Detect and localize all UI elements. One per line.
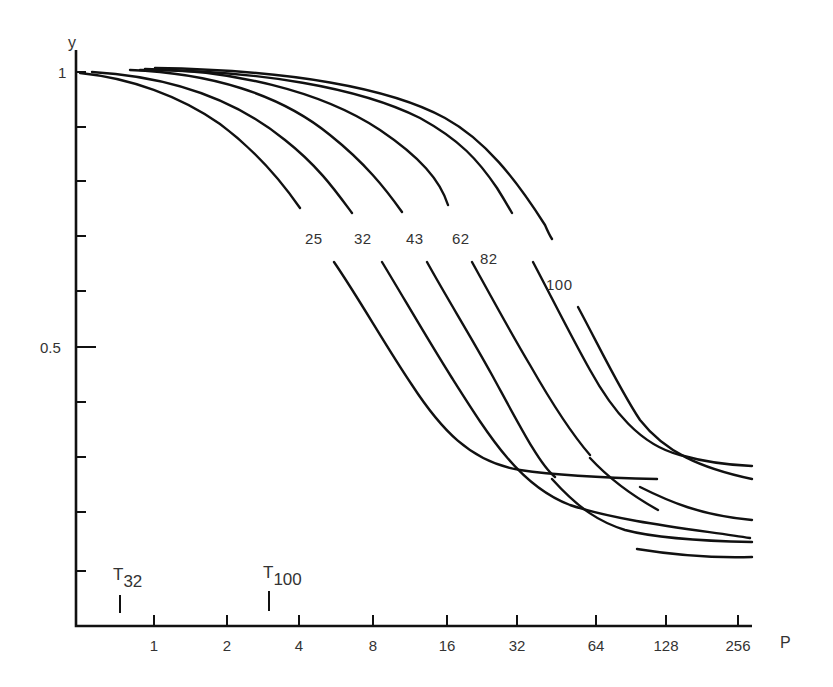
curve-32 xyxy=(92,72,750,538)
curve-label-32: 32 xyxy=(354,230,372,247)
x-axis-title: P xyxy=(780,634,791,651)
curve-label-100: 100 xyxy=(546,276,573,293)
x-tick-label: 16 xyxy=(439,637,456,654)
x-tick-label: 2 xyxy=(223,637,231,654)
x-axis-labels: 1248163264128256 xyxy=(150,637,751,654)
curve-62 xyxy=(145,69,658,510)
x-tick-label: 256 xyxy=(725,637,750,654)
curve-segment xyxy=(334,262,657,479)
x-tick-label: 128 xyxy=(653,637,678,654)
curve-segment xyxy=(552,479,752,542)
curve-43 xyxy=(130,70,752,542)
curve-62b xyxy=(637,549,752,557)
x-tick-label: 8 xyxy=(369,637,377,654)
curve-segment xyxy=(382,262,750,538)
axes xyxy=(76,50,752,626)
y-axis-labels: y10.5 xyxy=(40,34,76,356)
threshold-markers: T32T100 xyxy=(113,563,302,613)
y-tick-label: 1 xyxy=(58,64,66,81)
curve-segment xyxy=(92,72,352,213)
x-tick-label: 32 xyxy=(509,637,526,654)
curve-segment xyxy=(640,487,752,520)
x-tick-label: 1 xyxy=(150,637,158,654)
threshold-marker-label: T32 xyxy=(113,565,142,591)
curve-label-62: 62 xyxy=(452,230,470,247)
curve-100 xyxy=(155,68,752,479)
x-tick-label: 64 xyxy=(588,637,605,654)
curve-segment xyxy=(80,73,300,208)
y-tick-label: 0.5 xyxy=(40,339,61,356)
curve-label-25: 25 xyxy=(305,230,323,247)
curve-segment xyxy=(637,549,752,557)
curve-segment xyxy=(130,70,402,212)
curve-label-43: 43 xyxy=(406,230,424,247)
curve-segment xyxy=(590,458,658,510)
curves xyxy=(80,68,752,557)
threshold-marker-label: T100 xyxy=(263,563,302,589)
y-tick-label: y xyxy=(68,34,76,51)
axis-lines xyxy=(76,50,752,626)
y-axis-ticks xyxy=(76,72,96,571)
x-tick-label: 4 xyxy=(295,637,303,654)
x-axis-ticks xyxy=(154,615,738,626)
curve-label-82: 82 xyxy=(480,250,498,267)
chart-canvas: y10.5 1248163264128256 T32T100 253243628… xyxy=(0,0,833,687)
